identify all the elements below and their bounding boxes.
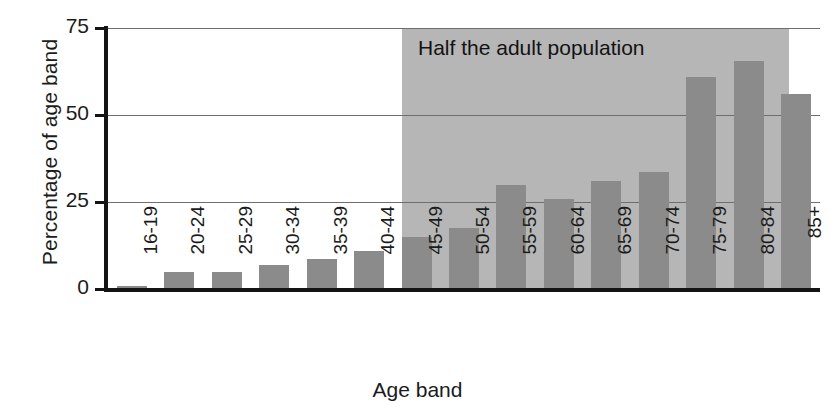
x-tick-label-16-19: 16-19	[140, 206, 162, 296]
x-tick-label-75-79: 75-79	[709, 206, 731, 296]
y-axis-line	[104, 26, 108, 291]
x-tick-label-55-59: 55-59	[519, 206, 541, 296]
y-tick-mark-25	[95, 201, 105, 204]
y-tick-label-25: 25	[66, 188, 89, 212]
x-tick-label-30-34: 30-34	[282, 206, 304, 296]
x-tick-label-20-24: 20-24	[187, 206, 209, 296]
x-tick-label-80-84: 80-84	[757, 206, 779, 296]
y-tick-label-0: 0	[77, 275, 89, 299]
bar-chart-figure: Percentage of age band 0255075 Half the …	[0, 0, 835, 416]
y-tick-mark-0	[95, 288, 105, 291]
y-tick-mark-75	[95, 27, 105, 30]
y-axis-title: Percentage of age band	[38, 2, 62, 302]
x-tick-label-70-74: 70-74	[662, 206, 684, 296]
x-tick-label-25-29: 25-29	[235, 206, 257, 296]
x-tick-label-45-49: 45-49	[425, 206, 447, 296]
x-tick-label-85+: 85+	[804, 206, 826, 296]
x-tick-label-65-69: 65-69	[614, 206, 636, 296]
x-axis-title: Age band	[0, 378, 835, 402]
gridline-75	[108, 28, 820, 29]
annotation-half-the-adult-population: Half the adult population	[418, 36, 645, 60]
x-tick-label-35-39: 35-39	[330, 206, 352, 296]
y-tick-label-50: 50	[66, 101, 89, 125]
x-tick-label-50-54: 50-54	[472, 206, 494, 296]
y-tick-label-75: 75	[66, 14, 89, 38]
x-tick-label-60-64: 60-64	[567, 206, 589, 296]
x-tick-label-40-44: 40-44	[377, 206, 399, 296]
y-tick-mark-50	[95, 114, 105, 117]
